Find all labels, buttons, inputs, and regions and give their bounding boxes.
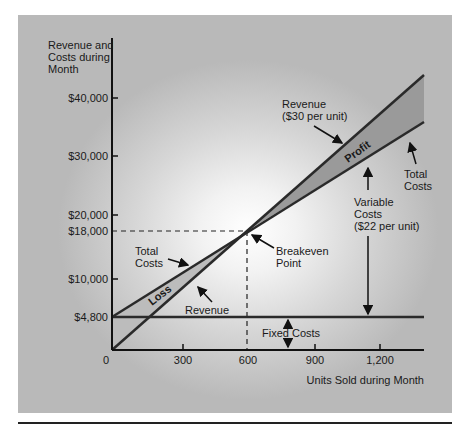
y-tick-40000: $40,000 [68,92,108,104]
y-axis-title-line1: Revenue and [48,39,113,51]
y-tick-20000: $20,000 [68,209,108,221]
x-tick-900: 900 [306,354,324,366]
total-costs-left-arrow-icon [168,259,188,265]
breakeven-arrow-icon [252,235,274,248]
variable-costs-line2: Costs [354,208,383,220]
total-costs-right-line2: Costs [404,180,433,192]
variable-costs-line3: ($22 per unit) [354,220,419,232]
total-costs-right-line1: Total [404,168,427,180]
y-tick-30000: $30,000 [68,150,108,162]
total-costs-right-arrow-icon [410,143,416,164]
breakeven-label-line2: Point [276,257,301,269]
fixed-costs-label: Fixed Costs [262,327,321,339]
x-tick-600: 600 [239,354,257,366]
variable-costs-line1: Variable [354,196,394,208]
total-costs-left-line2: Costs [135,257,164,269]
revenue-label-line1: Revenue [282,98,326,110]
x-axis-title: Units Sold during Month [307,374,424,386]
y-axis-title-line3: Month [48,63,79,75]
y-tick-4800: $4,800 [74,311,108,323]
revenue-bottom-label: Revenue [185,304,229,316]
revenue-bottom-arrow-icon [198,287,212,302]
breakeven-label-line1: Breakeven [276,245,329,257]
x-tick-300: 300 [174,354,192,366]
y-axis-title-line2: Costs during [48,51,110,63]
y-tick-18000: $18,000 [68,225,108,237]
x-tick-0: 0 [103,354,109,366]
revenue-label-line2: ($30 per unit) [282,110,347,122]
revenue-arrow-icon [314,126,342,143]
breakeven-chart: Revenue and Costs during Month $40,000 $… [0,0,468,434]
y-tick-10000: $10,000 [68,273,108,285]
bottom-rule [18,422,452,424]
x-tick-1200: 1,200 [366,354,394,366]
total-costs-left-line1: Total [135,245,158,257]
